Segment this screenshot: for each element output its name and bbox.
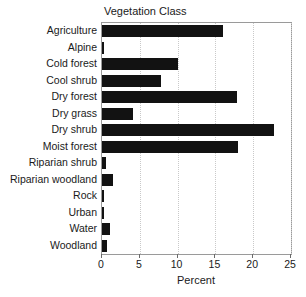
bar-row (102, 188, 291, 205)
y-axis-label: Urban (5, 206, 101, 218)
bar (102, 75, 161, 87)
bar (102, 58, 178, 70)
bar (102, 108, 133, 120)
gridline (291, 23, 292, 254)
chart-title: Vegetation Class (104, 4, 187, 18)
bar-row (102, 122, 291, 139)
bar-row (102, 139, 291, 156)
bar-row (102, 106, 291, 123)
x-tick-label: 15 (209, 258, 221, 271)
x-tick-label: 10 (171, 258, 183, 271)
bar (102, 91, 237, 103)
bar-row (102, 56, 291, 73)
y-axis-label: Dry forest (5, 90, 101, 102)
plot-area (101, 22, 292, 255)
bar (102, 207, 104, 219)
bar-chart: Vegetation Class AgricultureAlpineCold f… (0, 0, 306, 297)
y-axis-label: Cool shrub (5, 74, 101, 86)
y-axis-label: Riparian shrub (5, 156, 101, 168)
x-axis-ticks: 0510152025 (101, 254, 291, 270)
y-axis-label: Dry grass (5, 107, 101, 119)
bar-row (102, 23, 291, 40)
y-axis-label: Water (5, 222, 101, 234)
y-axis-label: Rock (5, 189, 101, 201)
y-axis-category-labels: AgricultureAlpineCold forestCool shrubDr… (0, 22, 101, 253)
bar (102, 157, 106, 169)
bar (102, 42, 104, 54)
bar (102, 190, 104, 202)
bar-row (102, 89, 291, 106)
x-tick-label: 5 (136, 258, 142, 271)
bar (102, 223, 110, 235)
bar-row (102, 221, 291, 238)
y-axis-label: Riparian woodland (5, 173, 101, 185)
bar-row (102, 73, 291, 90)
bar-row (102, 155, 291, 172)
y-axis-label: Moist forest (5, 140, 101, 152)
x-axis-title: Percent (101, 273, 291, 287)
y-axis-label: Woodland (5, 239, 101, 251)
bar-row (102, 40, 291, 57)
bar-row (102, 205, 291, 222)
y-axis-label: Cold forest (5, 57, 101, 69)
bar (102, 240, 107, 252)
bar (102, 25, 223, 37)
bar (102, 124, 274, 136)
y-axis-label: Agriculture (5, 24, 101, 36)
x-tick-label: 20 (246, 258, 258, 271)
bar (102, 174, 113, 186)
x-tick-label: 0 (98, 258, 104, 271)
bar-row (102, 172, 291, 189)
bar-row (102, 238, 291, 255)
y-axis-label: Dry shrub (5, 123, 101, 135)
bar (102, 141, 238, 153)
x-tick-label: 25 (284, 258, 296, 271)
y-axis-label: Alpine (5, 41, 101, 53)
